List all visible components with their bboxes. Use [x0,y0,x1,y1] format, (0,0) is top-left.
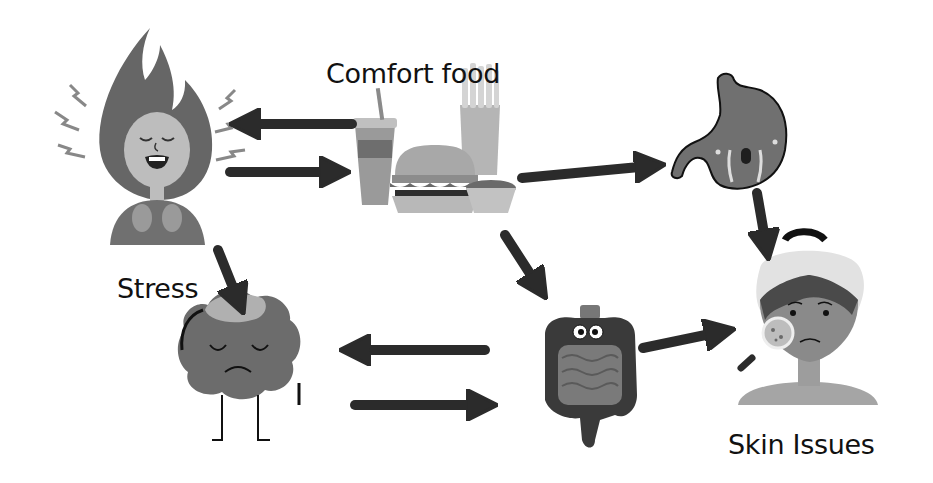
label-stress: Stress [117,273,198,304]
crying-stomach-icon [672,74,787,189]
stressed-person-icon [55,28,245,245]
label-skin-issues: Skin Issues [728,429,875,460]
intestines-icon [545,305,637,448]
sad-brain-icon [178,291,301,440]
woman-with-acne-icon [738,232,878,405]
label-comfort-food: Comfort food [326,58,500,89]
arrow-food-to-stomach [522,166,650,178]
arrow-gut-to-skin [643,332,720,348]
arrow-food-to-gut [505,235,538,286]
diagram-canvas: Comfort food Stress Skin Issues [0,0,933,483]
arrow-stomach-to-skin [757,193,766,245]
